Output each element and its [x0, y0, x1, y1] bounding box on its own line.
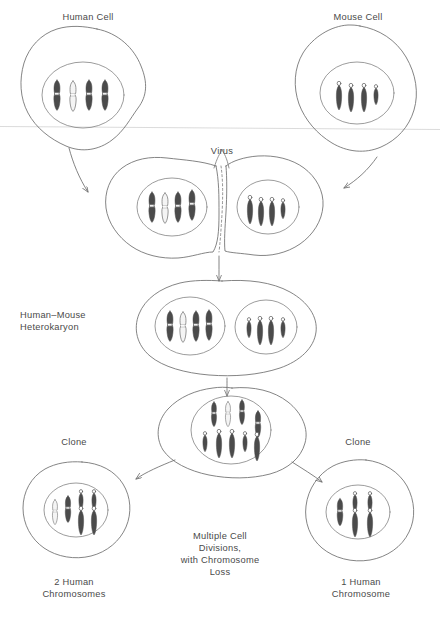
fusion-left-human-chromosomes [149, 190, 195, 223]
clone-left-chromosomes [52, 490, 96, 535]
label-clone-left: Clone [26, 437, 122, 449]
mouse-cell-nucleus [320, 62, 394, 124]
label-heterokaryon-line1: Human–Mouse [20, 310, 142, 322]
arrow-human-to-fusion [69, 148, 88, 192]
heterokaryon-human-chromosomes [167, 310, 212, 342]
heterokaryon-human-nucleus [155, 297, 225, 355]
label-result-right-line2: Chromosome [299, 589, 423, 601]
human-cell-membrane [21, 26, 146, 149]
hybrid-cell-chromosomes [203, 400, 261, 461]
mouse-cell-chromosomes [336, 81, 378, 112]
heterokaryon-mouse-chromosomes [247, 316, 285, 345]
figure-canvas: Human Cell Mouse Cell Virus Human–Mouse … [0, 0, 440, 626]
label-human-cell: Human Cell [0, 12, 176, 24]
clone-right-membrane [306, 460, 414, 561]
fusion-left-nucleus [137, 178, 207, 236]
label-virus: Virus [182, 146, 262, 158]
label-heterokaryon-line2: Heterokaryon [20, 322, 142, 334]
label-clone-right: Clone [310, 437, 406, 449]
arrow-mouse-to-fusion [344, 157, 377, 188]
fusion-right-mouse-chromosomes [247, 195, 285, 226]
heterokaryon-membrane [136, 280, 316, 375]
fusion-right-nucleus [237, 180, 299, 234]
label-divisions-line2: Divisions, [160, 543, 280, 555]
scan-line-artifact [0, 127, 440, 130]
clone-right-nucleus [326, 485, 390, 539]
arrow-hybrid-to-clone-left [136, 460, 175, 479]
label-result-left-line2: Chromosomes [10, 589, 138, 601]
clone-left-membrane [23, 462, 130, 558]
label-divisions-line1: Multiple Cell [160, 531, 280, 543]
label-divisions-line3: with Chromosome [155, 555, 285, 567]
label-result-left-line1: 2 Human [16, 577, 132, 589]
label-mouse-cell: Mouse Cell [296, 12, 420, 24]
mouse-cell-membrane [295, 25, 416, 151]
label-divisions-line4: Loss [160, 567, 280, 579]
clone-right-chromosomes [337, 492, 372, 537]
label-result-right-line1: 1 Human [303, 577, 419, 589]
heterokaryon-mouse-nucleus [235, 300, 297, 354]
human-cell-chromosomes [54, 80, 108, 111]
